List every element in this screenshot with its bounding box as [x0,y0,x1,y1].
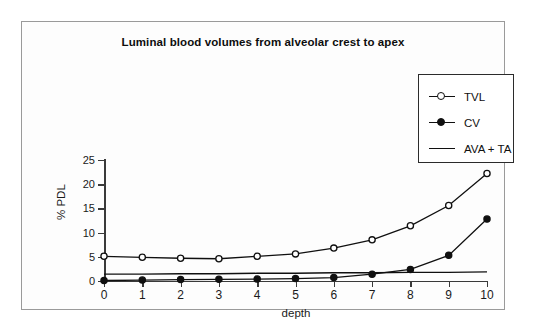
legend-entry-tvl: TVL [428,84,513,110]
y-tick-label: 5 [89,251,95,263]
legend-entry-ava-ta: AVA + TA [428,136,513,162]
filled-circle-marker-icon [428,116,458,130]
y-axis-title: % PDL [55,184,67,220]
x-tick-label: 4 [254,288,261,302]
x-axis-title: depth [104,307,488,319]
x-tick [142,281,143,287]
open-circle-marker-icon [428,90,458,104]
y-tick-label: 15 [83,202,95,214]
x-tick [181,281,182,287]
legend-entry-cv: CV [428,110,513,136]
x-tick-label: 10 [480,288,493,302]
legend-label-cv: CV [464,117,480,129]
plot-area: 0510152025 012345678910 [104,160,487,281]
x-tick-label: 8 [407,288,414,302]
x-tick [104,281,105,287]
x-tick-label: 0 [101,288,108,302]
y-tick [98,233,104,234]
y-tick-label: 25 [83,154,95,166]
figure-frame: Luminal blood volumes from alveolar cres… [21,21,505,310]
x-tick [334,281,335,287]
y-tick [98,160,104,161]
legend-label-ava-ta: AVA + TA [464,143,511,155]
x-tick [219,281,220,287]
x-tick-label: 3 [216,288,223,302]
x-tick [487,281,488,287]
x-tick-label: 9 [445,288,452,302]
legend-label-tvl: TVL [464,91,485,103]
y-tick [98,257,104,258]
x-tick [449,281,450,287]
x-tick-label: 5 [292,288,299,302]
y-tick-label: 20 [83,178,95,190]
chart-legend: TVL CV AVA + TA [418,74,514,163]
line-marker-icon [428,142,458,156]
chart-title: Luminal blood volumes from alveolar cres… [22,36,504,48]
y-tick [98,208,104,209]
y-tick-label: 10 [83,227,95,239]
x-tick [257,281,258,287]
y-tick [98,184,104,185]
x-tick [372,281,373,287]
x-tick-label: 1 [139,288,146,302]
x-tick [296,281,297,287]
y-tick-label: 0 [89,275,95,287]
x-tick-label: 7 [369,288,376,302]
x-tick-label: 2 [177,288,184,302]
x-tick [410,281,411,287]
x-tick-label: 6 [330,288,337,302]
